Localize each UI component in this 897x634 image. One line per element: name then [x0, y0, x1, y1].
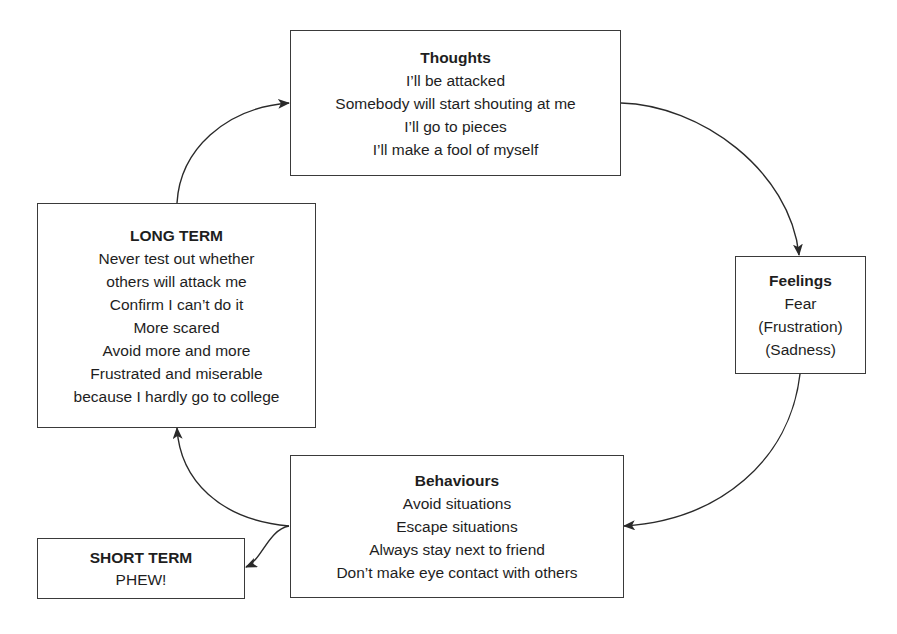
long-term-box: LONG TERM Never test out whether others … — [37, 203, 316, 428]
long-term-title: LONG TERM — [38, 224, 315, 247]
thoughts-line: I’ll be attacked — [291, 69, 620, 92]
behaviours-title: Behaviours — [291, 469, 623, 492]
feelings-line: (Sadness) — [736, 338, 865, 361]
thoughts-line: Somebody will start shouting at me — [291, 92, 620, 115]
arrow-longterm-to-thoughts — [177, 103, 289, 203]
behaviours-line: Avoid situations — [291, 492, 623, 515]
arrow-thoughts-to-feelings — [621, 103, 799, 255]
feelings-box: Feelings Fear (Frustration) (Sadness) — [735, 256, 866, 374]
behaviours-line: Always stay next to friend — [291, 538, 623, 561]
long-term-line: others will attack me — [38, 270, 315, 293]
behaviours-line: Don’t make eye contact with others — [291, 561, 623, 584]
feelings-title: Feelings — [736, 269, 865, 292]
short-term-title: SHORT TERM — [38, 547, 244, 569]
thoughts-box: Thoughts I’ll be attacked Somebody will … — [290, 30, 621, 176]
thoughts-title: Thoughts — [291, 46, 620, 69]
feelings-line: Fear — [736, 292, 865, 315]
behaviours-box: Behaviours Avoid situations Escape situa… — [290, 455, 624, 598]
arrow-behaviours-to-shortterm — [246, 526, 289, 567]
feelings-line: (Frustration) — [736, 315, 865, 338]
thoughts-line: I’ll make a fool of myself — [291, 138, 620, 161]
thoughts-line: I’ll go to pieces — [291, 115, 620, 138]
long-term-line: because I hardly go to college — [38, 385, 315, 408]
arrow-behaviours-to-longterm — [177, 428, 289, 526]
behaviours-line: Escape situations — [291, 515, 623, 538]
long-term-line: More scared — [38, 316, 315, 339]
arrow-feelings-to-behaviours — [624, 374, 800, 526]
short-term-box: SHORT TERM PHEW! — [37, 538, 245, 599]
short-term-line: PHEW! — [38, 569, 244, 591]
long-term-line: Never test out whether — [38, 247, 315, 270]
long-term-line: Frustrated and miserable — [38, 362, 315, 385]
long-term-line: Confirm I can’t do it — [38, 293, 315, 316]
long-term-line: Avoid more and more — [38, 339, 315, 362]
